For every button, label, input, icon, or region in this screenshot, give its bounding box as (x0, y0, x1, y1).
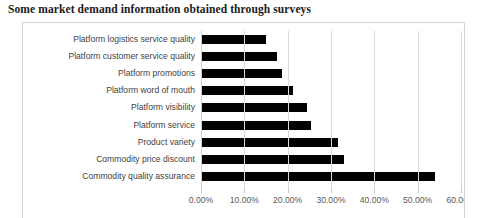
plot-area: Platform logistics service qualityPlatfo… (23, 23, 464, 218)
figure-caption: Some market demand information obtained … (8, 2, 478, 16)
bar (201, 35, 266, 44)
x-tick-label: 30.00% (309, 195, 353, 205)
tick-mark-40.00% (374, 189, 375, 193)
category-label: Platform word of mouth (23, 82, 195, 99)
gridline-20.00% (288, 31, 289, 189)
bar (201, 103, 307, 112)
category-label: Platform logistics service quality (23, 31, 195, 48)
bar (201, 121, 311, 130)
category-label: Platform customer service quality (23, 48, 195, 65)
bar (201, 172, 435, 181)
category-label: Platform visibility (23, 99, 195, 116)
tick-mark-30.00% (331, 189, 332, 193)
chart-plot-frame: Platform logistics service qualityPlatfo… (22, 22, 465, 218)
tick-mark-20.00% (288, 189, 289, 193)
bar (201, 86, 293, 95)
chart-figure: Some market demand information obtained … (0, 0, 489, 218)
gridline-50.00% (418, 31, 419, 189)
tick-mark-10.00% (244, 189, 245, 193)
category-label: Commodity quality assurance (23, 168, 195, 185)
gridline-0.00% (201, 31, 202, 189)
gridline-40.00% (374, 31, 375, 189)
x-tick-label: 0.00% (179, 195, 223, 205)
tick-mark-50.00% (418, 189, 419, 193)
x-tick-label: 10.00% (222, 195, 266, 205)
category-label: Product variety (23, 134, 195, 151)
x-tick-label: 20.00% (266, 195, 310, 205)
bar (201, 69, 282, 78)
category-label: Platform service (23, 117, 195, 134)
x-tick-label: 50.00% (396, 195, 440, 205)
x-tick-label: 60.00% (439, 195, 465, 205)
tick-mark-0.00% (201, 189, 202, 193)
bar (201, 155, 344, 164)
bar (201, 138, 338, 147)
x-tick-label: 40.00% (352, 195, 396, 205)
bar (201, 52, 277, 61)
gridline-10.00% (244, 31, 245, 189)
category-label: Platform promotions (23, 65, 195, 82)
tick-mark-60.00% (461, 189, 462, 193)
gridline-30.00% (331, 31, 332, 189)
gridline-60.00% (461, 31, 462, 189)
category-label: Commodity price discount (23, 151, 195, 168)
